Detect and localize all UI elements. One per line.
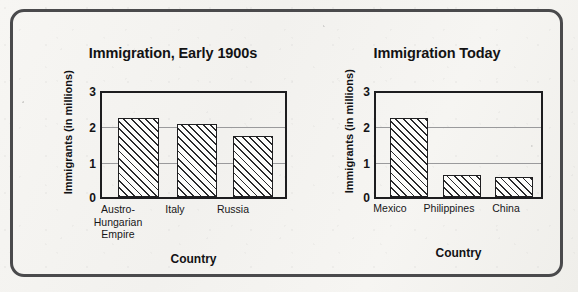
- y-tick-2: 2: [354, 122, 370, 134]
- chart-title: Immigration, Early 1900s: [33, 45, 313, 61]
- plot-area: [100, 91, 287, 199]
- y-axis-label: Immigrants (in millions): [62, 98, 75, 194]
- page-background: Immigration, Early 1900s Immigrants (in …: [0, 0, 578, 292]
- chart-immigration-early-1900s: Immigration, Early 1900s Immigrants (in …: [31, 12, 311, 274]
- x-category-russia: Russia: [205, 203, 261, 216]
- x-category-italy: Italy: [149, 203, 201, 216]
- x-axis-label: Country: [100, 252, 287, 266]
- y-tick-1: 1: [354, 158, 370, 170]
- bar-mexico: [390, 118, 428, 197]
- y-axis-label: Immigrants (in millions): [343, 97, 356, 193]
- y-tick-3: 3: [354, 86, 370, 98]
- chart-title: Immigration Today: [307, 45, 567, 61]
- x-category-austro-hungarian-empire: Austro- Hungarian Empire: [86, 203, 150, 241]
- bar-austro-hungarian-empire: [118, 118, 159, 197]
- x-category-china: China: [479, 202, 533, 215]
- y-tick-1: 1: [80, 158, 96, 170]
- bar-philippines: [443, 175, 481, 197]
- x-category-philippines: Philippines: [413, 202, 485, 215]
- x-category-mexico: Mexico: [361, 202, 419, 215]
- y-tick-3: 3: [80, 86, 96, 98]
- bar-china: [495, 177, 533, 197]
- figure-frame: Immigration, Early 1900s Immigrants (in …: [10, 9, 563, 277]
- x-axis-label: Country: [374, 246, 543, 260]
- chart-immigration-today: Immigration Today Immigrants (in million…: [313, 12, 573, 274]
- bar-italy: [177, 124, 217, 197]
- bar-russia: [233, 136, 273, 197]
- y-tick-2: 2: [80, 122, 96, 134]
- plot-area: [374, 91, 543, 199]
